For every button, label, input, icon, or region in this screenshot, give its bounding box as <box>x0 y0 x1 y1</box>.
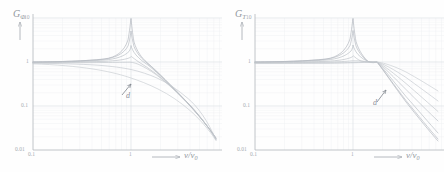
right-curve-family <box>255 19 438 142</box>
right-ytick-0-1: 0.1 <box>243 103 250 109</box>
right-x-sub: 0 <box>417 155 420 161</box>
right-minor-grid <box>255 18 444 150</box>
right-plot-svg <box>222 0 444 172</box>
left-x-sym: ν/ν <box>184 150 195 160</box>
left-xtick-1: 1 <box>129 152 132 158</box>
left-x-sub: 0 <box>195 155 198 161</box>
right-ytick-0-01: 0.01 <box>237 147 247 153</box>
left-x-axis-label: ν/ν0 <box>184 151 198 161</box>
curve-d-0-35 <box>255 56 438 121</box>
left-ytick-10: 10 <box>24 15 30 21</box>
right-param-arrow <box>377 90 386 102</box>
left-ytick-0-01: 0.01 <box>15 147 25 153</box>
right-x-sym: ν/ν <box>406 150 417 160</box>
curve-d-0-7 <box>255 62 438 101</box>
curve-d-0-5 <box>255 61 438 112</box>
right-param-label: d <box>373 99 377 107</box>
right-ytick-1: 1 <box>248 59 251 65</box>
figure-container: GΦ 10 1 0.1 0.01 0.1 1 ν/ν0 d <box>0 0 444 172</box>
right-ytick-10: 10 <box>246 15 252 21</box>
curve-d-0-2 <box>255 45 438 133</box>
right-y-axis-label: GT <box>235 8 246 20</box>
left-ytick-1: 1 <box>26 59 29 65</box>
curve-d-0-7 <box>33 63 216 140</box>
right-major-grid <box>255 18 444 150</box>
curve-d-0-5 <box>33 62 216 139</box>
chart-right-g-t: GT 10 1 0.1 0.01 0.1 1 ν/ν0 d <box>222 0 444 172</box>
right-axes <box>255 14 444 150</box>
left-minor-grid <box>33 18 222 150</box>
chart-left-g-phi: GΦ 10 1 0.1 0.01 0.1 1 ν/ν0 d <box>0 0 222 172</box>
left-xtick-0-1: 0.1 <box>28 152 35 158</box>
left-plot-svg <box>0 0 222 172</box>
left-axes <box>33 14 222 150</box>
right-xtick-0-1: 0.1 <box>250 152 257 158</box>
left-ytick-0-1: 0.1 <box>21 103 28 109</box>
left-param-label: d <box>126 92 130 100</box>
right-xtick-1: 1 <box>351 152 354 158</box>
curve-d-0-05 <box>33 19 216 139</box>
left-major-grid <box>33 18 222 150</box>
curve-d-0-05 <box>255 19 438 142</box>
right-x-axis-label: ν/ν0 <box>406 151 420 161</box>
